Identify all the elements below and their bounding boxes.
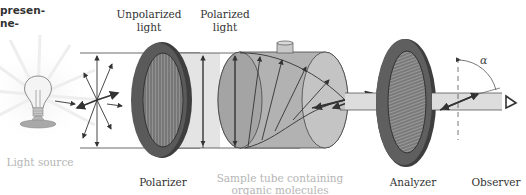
light-source-label: Light source bbox=[0, 156, 80, 169]
label-line: Polarized bbox=[185, 8, 265, 21]
polarizer-label: Polarizer bbox=[128, 176, 198, 189]
analyzer-disk bbox=[376, 39, 436, 167]
polarized-light-label: Polarized light bbox=[185, 8, 265, 34]
observer-label: Observer bbox=[466, 176, 526, 189]
label-line: Sample tube containing bbox=[210, 172, 350, 184]
analyzer-label: Analyzer bbox=[378, 176, 448, 189]
sample-tube-label: Sample tube containing organic molecules bbox=[210, 172, 350, 195]
label-line: light bbox=[185, 21, 265, 34]
label-line: light bbox=[104, 21, 194, 34]
label-line: Unpolarized bbox=[104, 8, 194, 21]
label-line: organic molecules bbox=[210, 184, 350, 195]
unpolarized-light-label: Unpolarized light bbox=[104, 8, 194, 34]
angle-alpha-label: α bbox=[480, 54, 487, 67]
observer-eye-icon bbox=[506, 96, 516, 108]
polarizer-disk bbox=[131, 42, 192, 158]
